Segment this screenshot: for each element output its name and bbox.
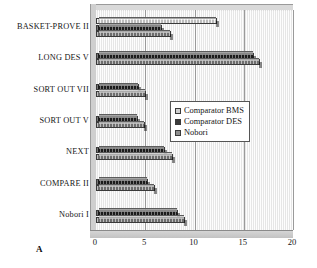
category-label: SORT OUT V: [40, 116, 89, 125]
bar: [96, 59, 260, 65]
category-label: BASKET-PROVE II: [17, 21, 89, 30]
legend-item: Comparator BMS: [175, 105, 244, 116]
gridline-5: [145, 10, 146, 230]
bar: [96, 31, 171, 37]
bar: [96, 122, 145, 128]
legend-label: Comparator DES: [184, 117, 242, 126]
legend-label: Comparator BMS: [184, 106, 244, 115]
gridline-20: [293, 10, 294, 230]
category-label: LONG DES V: [38, 53, 89, 62]
x-tick-label: 20: [288, 237, 297, 247]
category-label: COMPARE II: [40, 178, 89, 187]
legend-label: Nobori: [184, 128, 208, 137]
x-tick-label: 0: [93, 237, 97, 247]
bar: [96, 217, 185, 223]
bar: [96, 185, 155, 191]
legend-swatch-icon: [175, 108, 181, 114]
x-axis-tick-labels: 05101520: [95, 237, 295, 253]
legend-swatch-icon: [175, 130, 181, 136]
panel-letter: A: [36, 244, 43, 254]
chart-figure: BASKET-PROVE IILONG DES VSORT OUT VIISOR…: [0, 0, 317, 268]
legend-item: Nobori: [175, 127, 244, 138]
category-axis-labels: BASKET-PROVE IILONG DES VSORT OUT VIISOR…: [0, 10, 92, 230]
bar: [96, 91, 146, 97]
legend-item: Comparator DES: [175, 116, 244, 127]
bar: [96, 154, 173, 160]
category-label: Nobori I: [59, 210, 89, 219]
legend-swatch-icon: [175, 119, 181, 125]
chart-legend: Comparator BMSComparator DESNobori: [170, 101, 250, 142]
category-label: SORT OUT VII: [34, 84, 89, 93]
x-tick-label: 10: [189, 237, 198, 247]
x-tick-label: 5: [142, 237, 146, 247]
x-tick-label: 15: [238, 237, 247, 247]
category-label: NEXT: [66, 147, 89, 156]
